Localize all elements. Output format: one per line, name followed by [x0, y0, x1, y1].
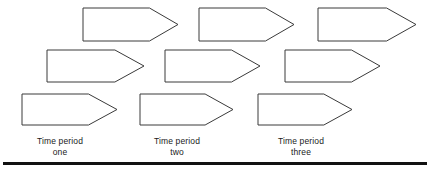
arrow-r3-c3[interactable] — [258, 94, 352, 125]
time-period-one-line-2: one — [10, 147, 110, 158]
time-period-one-line-1: Time period — [10, 136, 110, 147]
time-period-three-line-1: Time period — [251, 136, 351, 147]
baseline-rule — [3, 162, 427, 165]
time-period-one: Time periodone — [10, 136, 110, 158]
time-period-two-line-1: Time period — [127, 136, 227, 147]
time-period-two-line-2: two — [127, 147, 227, 158]
arrow-r1-c3[interactable] — [318, 8, 416, 41]
arrow-r3-c2[interactable] — [140, 94, 233, 125]
arrow-r1-c1[interactable] — [83, 8, 178, 41]
arrow-r3-c1[interactable] — [22, 94, 117, 125]
arrow-r2-c3[interactable] — [285, 50, 380, 82]
arrow-r2-c1[interactable] — [47, 50, 144, 82]
time-period-three-line-2: three — [251, 147, 351, 158]
time-period-two: Time periodtwo — [127, 136, 227, 158]
arrow-r2-c2[interactable] — [165, 50, 260, 82]
arrow-r1-c2[interactable] — [199, 8, 294, 41]
diagram-canvas: Time periodoneTime periodtwoTime periodt… — [0, 0, 440, 176]
time-period-three: Time periodthree — [251, 136, 351, 158]
